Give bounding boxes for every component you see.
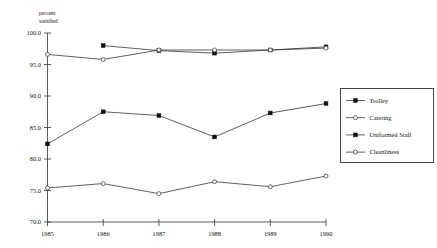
x-tick-label: 1990 xyxy=(320,230,333,237)
data-point-marker xyxy=(324,174,328,178)
legend-label: Cleanliness xyxy=(370,148,400,155)
y-tick-label: 95.0 xyxy=(30,61,41,68)
data-point-marker xyxy=(101,44,105,48)
legend-label: Trolley xyxy=(370,97,389,104)
y-tick-label: 85.0 xyxy=(30,124,41,131)
data-point-marker xyxy=(213,180,217,184)
series-line xyxy=(48,104,327,144)
data-point-marker xyxy=(354,150,358,154)
x-tick-label: 1989 xyxy=(264,230,277,237)
y-axis-tick-labels: 100.0 95.0 90.0 85.0 80.0 75.0 70.0 xyxy=(27,29,41,225)
x-axis-ticks xyxy=(48,219,327,226)
x-tick-label: 1987 xyxy=(153,230,167,237)
data-point-marker xyxy=(324,102,328,106)
y-tick-label: 75.0 xyxy=(30,187,41,194)
series-line xyxy=(48,48,327,59)
chart-canvas: percent satisfied 100.0 95.0 90.0 85.0 8… xyxy=(0,0,437,248)
x-axis-tick-labels: 1985 1986 1987 1988 1989 1990 xyxy=(41,230,332,237)
data-point-marker xyxy=(46,142,50,146)
series-catering xyxy=(46,174,329,196)
data-point-marker xyxy=(157,192,161,196)
x-tick-label: 1986 xyxy=(97,230,110,237)
data-point-marker xyxy=(213,135,217,139)
data-point-marker xyxy=(157,114,161,118)
data-point-marker xyxy=(268,185,272,189)
series-trolley xyxy=(46,102,328,146)
data-point-marker xyxy=(46,186,50,190)
series-layer xyxy=(46,44,329,196)
y-tick-label: 70.0 xyxy=(30,218,41,225)
data-point-marker xyxy=(101,110,105,114)
x-tick-label: 1985 xyxy=(41,230,54,237)
data-point-marker xyxy=(354,133,358,137)
series-line xyxy=(48,176,327,194)
y-tick-label: 90.0 xyxy=(30,92,41,99)
x-tick-label: 1988 xyxy=(208,230,221,237)
y-axis-title-line1: percent xyxy=(39,10,56,16)
data-point-marker xyxy=(354,99,358,103)
data-point-marker xyxy=(268,48,272,52)
y-tick-label: 80.0 xyxy=(30,155,41,162)
y-axis-title-line2: satisfied xyxy=(39,18,58,24)
data-point-marker xyxy=(101,182,105,186)
legend-label: Uniformed Staff xyxy=(370,131,413,138)
data-point-marker xyxy=(268,111,272,115)
y-tick-label: 100.0 xyxy=(27,29,41,36)
data-point-marker xyxy=(101,57,105,61)
data-point-marker xyxy=(213,48,217,52)
data-point-marker xyxy=(324,46,328,50)
series-cleanliness xyxy=(46,46,329,61)
data-point-marker xyxy=(46,52,50,56)
legend-label: Catering xyxy=(370,114,393,121)
line-chart: percent satisfied 100.0 95.0 90.0 85.0 8… xyxy=(0,0,437,248)
data-point-marker xyxy=(354,116,358,120)
data-point-marker xyxy=(157,48,161,52)
